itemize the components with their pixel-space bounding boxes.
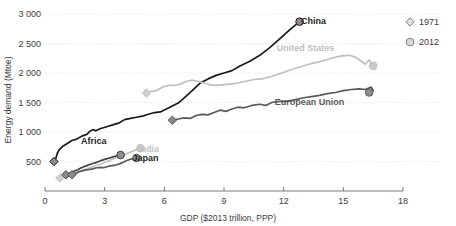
x-tick-label: 15 bbox=[338, 196, 348, 206]
legend-label-2012: 2012 bbox=[419, 37, 439, 47]
y-tick-label: 1 000 bbox=[18, 127, 41, 137]
x-tick-label: 0 bbox=[42, 196, 47, 206]
y-tick-label: 3 000 bbox=[18, 9, 41, 19]
y-axis-title: Energy demand (Mtoe) bbox=[3, 56, 13, 143]
series-line-united-states bbox=[146, 55, 373, 93]
x-tick-label: 12 bbox=[279, 196, 289, 206]
marker-1971-diamond bbox=[50, 157, 58, 165]
legend-label-1971: 1971 bbox=[419, 17, 439, 27]
x-tick-label: 6 bbox=[162, 196, 167, 206]
series-label-africa: Africa bbox=[81, 136, 108, 146]
x-tick-label: 3 bbox=[102, 196, 107, 206]
series-label-united-states: United States bbox=[277, 43, 335, 53]
y-tick-label: 1 500 bbox=[18, 98, 41, 108]
x-tick-label: 18 bbox=[398, 196, 408, 206]
marker-2012-circle bbox=[117, 151, 125, 159]
marker-1971-diamond bbox=[142, 89, 150, 97]
y-tick-label: 2 500 bbox=[18, 39, 41, 49]
marker-1971-diamond bbox=[406, 18, 414, 26]
marker-2012-circle bbox=[365, 89, 373, 97]
series-labels-group: ChinaUnited StatesEuropean UnionAfricaIn… bbox=[81, 16, 344, 163]
energy-gdp-chart: 5001 0001 5002 0002 5003 000 0369121518 … bbox=[0, 0, 456, 226]
series-label-china: China bbox=[301, 16, 327, 26]
x-axis-title: GDP ($2013 trillion, PPP) bbox=[180, 213, 276, 223]
marker-1971-diamond bbox=[168, 116, 176, 124]
axes-group bbox=[45, 187, 403, 191]
x-axis-tick-labels: 0369121518 bbox=[42, 196, 408, 206]
y-axis-tick-labels: 5001 0001 5002 0002 5003 000 bbox=[18, 9, 41, 167]
series-line-japan bbox=[72, 158, 137, 175]
y-tick-label: 2 000 bbox=[18, 68, 41, 78]
chart-legend: 19712012 bbox=[406, 17, 439, 47]
chart-canvas: 5001 0001 5002 0002 5003 000 0369121518 … bbox=[0, 0, 456, 226]
series-label-japan: Japan bbox=[132, 153, 158, 163]
y-tick-label: 500 bbox=[26, 157, 41, 167]
marker-2012-circle bbox=[406, 38, 414, 46]
series-label-european-union: European Union bbox=[275, 97, 345, 107]
marker-2012-circle bbox=[369, 62, 377, 70]
x-tick-label: 9 bbox=[221, 196, 226, 206]
